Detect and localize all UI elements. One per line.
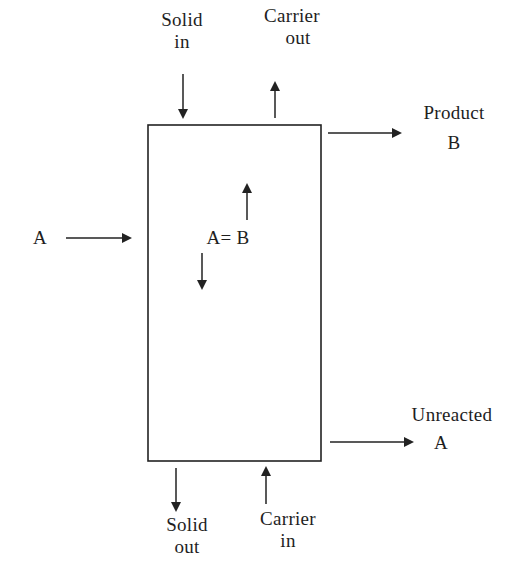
unreacted-label-line2: A (400, 432, 504, 454)
product-label-line2: B (414, 132, 494, 154)
solid-in-label-line2: in (154, 31, 210, 53)
reactor-flow-diagram: Solid in Carrier out Product B A A= B Un… (0, 0, 525, 588)
solid-in-label: Solid in (154, 9, 210, 53)
solid-out-label-line2: out (159, 536, 215, 558)
carrier-out-label-line2: out (256, 27, 328, 49)
unreacted-label: Unreacted A (400, 404, 504, 454)
solid-out-label: Solid out (159, 514, 215, 558)
carrier-out-label: Carrier out (256, 5, 328, 49)
feed-label: A (30, 227, 50, 249)
carrier-in-label-line1: Carrier (252, 508, 324, 530)
carrier-out-label-line1: Carrier (256, 5, 328, 27)
carrier-in-label-line2: in (252, 530, 324, 552)
reaction-label: A= B (200, 227, 256, 249)
solid-out-label-line1: Solid (159, 514, 215, 536)
product-label: Product B (414, 102, 494, 154)
product-label-line1: Product (414, 102, 494, 124)
carrier-in-label: Carrier in (252, 508, 324, 552)
unreacted-label-line1: Unreacted (400, 404, 504, 426)
diagram-canvas (0, 0, 525, 588)
solid-in-label-line1: Solid (154, 9, 210, 31)
reactor-vessel (148, 125, 321, 461)
arrow-layer (66, 74, 412, 510)
